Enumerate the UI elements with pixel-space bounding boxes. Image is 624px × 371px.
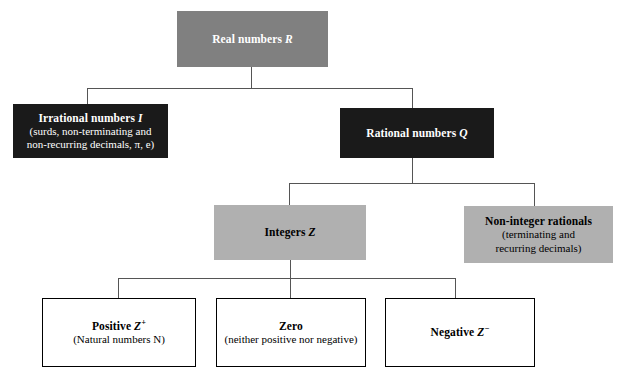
edge-to-integers — [289, 183, 290, 205]
positive-sign: + — [141, 318, 146, 327]
node-non-integer-rationals-title: Non-integer rationals — [485, 214, 592, 228]
node-zero-subtitle: (neither positive nor negative) — [225, 333, 358, 346]
node-negative-integers: Negative Z− — [385, 298, 535, 367]
node-positive-integers: Positive Z+ (Natural numbers N) — [42, 298, 196, 367]
edge-real-stem — [251, 67, 252, 88]
node-irrational-numbers: Irrational numbers I (surds, non-termina… — [13, 104, 168, 158]
node-integers-title: Integers Z — [264, 225, 315, 239]
node-real-numbers-title: Real numbers R — [212, 32, 293, 46]
number-classification-diagram: Real numbers R Irrational numbers I (sur… — [0, 0, 624, 371]
node-negative-integers-title: Negative Z− — [431, 325, 490, 339]
negative-sign: − — [484, 325, 489, 334]
node-positive-integers-title: Positive Z+ — [92, 319, 146, 333]
edge-to-positive — [118, 278, 119, 298]
edge-integers-stem — [290, 260, 291, 278]
node-real-numbers: Real numbers R — [177, 11, 328, 67]
node-zero: Zero (neither positive nor negative) — [216, 298, 366, 367]
node-zero-title: Zero — [279, 319, 303, 333]
edge-to-zero — [290, 278, 291, 298]
node-non-integer-rationals: Non-integer rationals (terminating and r… — [464, 206, 613, 263]
edge-rational-stem — [412, 158, 413, 183]
edge-to-non-integer-rationals — [534, 183, 535, 206]
node-non-integer-rationals-subtitle: (terminating and recurring decimals) — [496, 228, 582, 255]
edge-to-rational — [412, 88, 413, 108]
edge-integers-bus — [118, 278, 455, 279]
edge-to-irrational — [87, 88, 88, 104]
edge-to-negative — [455, 278, 456, 298]
node-irrational-numbers-title: Irrational numbers I — [38, 111, 142, 125]
node-positive-integers-subtitle: (Natural numbers N) — [73, 333, 165, 346]
edge-real-bus — [87, 88, 413, 89]
node-irrational-numbers-subtitle: (surds, non-terminating and non-recurrin… — [27, 125, 154, 152]
node-rational-numbers-title: Rational numbers Q — [366, 126, 468, 140]
node-rational-numbers: Rational numbers Q — [340, 108, 494, 158]
edge-rational-bus — [289, 183, 535, 184]
node-integers: Integers Z — [214, 205, 366, 260]
